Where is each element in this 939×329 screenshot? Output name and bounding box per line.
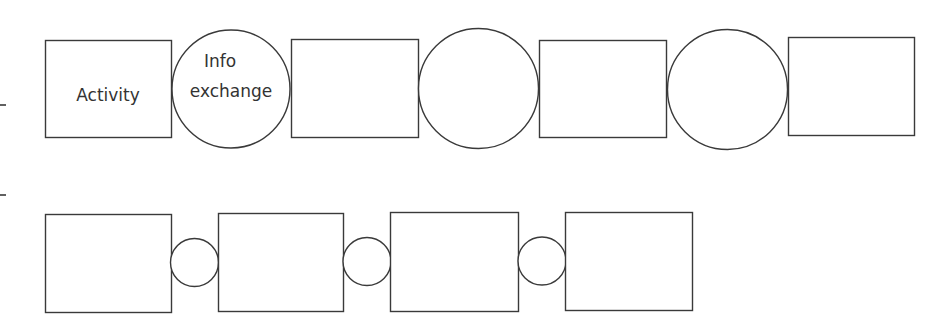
activity-box: [540, 41, 667, 138]
info-exchange-circle: [419, 29, 539, 149]
diagram: Activity Info exchange: [0, 0, 939, 329]
top-row: Activity Info exchange: [46, 29, 915, 150]
bottom-row: [46, 213, 693, 313]
info-exchange-label-line-1: Info: [204, 51, 236, 71]
activity-label: Activity: [76, 85, 140, 105]
info-exchange-circle-small: [171, 239, 219, 287]
info-exchange-label-line-2: exchange: [190, 81, 273, 101]
info-exchange-circle: Info exchange: [172, 30, 290, 148]
activity-box: [46, 215, 172, 313]
activity-box: [292, 40, 419, 138]
info-exchange-circle-small: [343, 238, 391, 286]
info-exchange-circle-small: [518, 237, 566, 285]
activity-box: [391, 213, 519, 312]
activity-box: Activity: [46, 41, 172, 138]
info-exchange-circle: [668, 30, 788, 150]
activity-box: [789, 38, 915, 136]
activity-box: [566, 213, 693, 311]
activity-box: [219, 214, 344, 312]
